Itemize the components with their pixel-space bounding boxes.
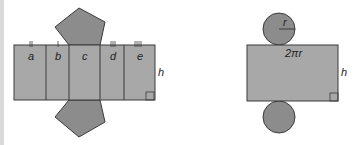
circumference-label: 2πr (284, 47, 303, 59)
pentagonal-prism-net: a b c d e h (14, 8, 164, 137)
face-label-e: e (137, 50, 143, 62)
nets-diagram: a b c d e h r 2πr h (0, 0, 356, 145)
face-label-b: b (55, 50, 61, 62)
face-label-a: a (28, 50, 34, 62)
face-label-c: c (82, 50, 88, 62)
prism-height-label: h (158, 66, 164, 78)
cylinder-height-label: h (341, 66, 347, 78)
face-label-d: d (110, 50, 117, 62)
bottom-pentagon-base (55, 100, 105, 137)
bottom-circle-base (263, 101, 295, 133)
top-pentagon-base (55, 8, 105, 45)
cylinder-net: r 2πr h (247, 13, 347, 133)
